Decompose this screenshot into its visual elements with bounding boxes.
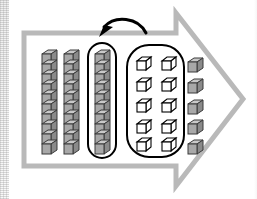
diagram-canvas xyxy=(0,0,257,199)
diagram-svg xyxy=(0,0,257,199)
left-edge-noise-strip xyxy=(0,0,9,199)
tens-rod-1 xyxy=(42,50,57,154)
tens-rod-3 xyxy=(95,50,110,154)
right-edge-fade xyxy=(254,0,257,199)
tens-rod-2 xyxy=(64,50,79,154)
